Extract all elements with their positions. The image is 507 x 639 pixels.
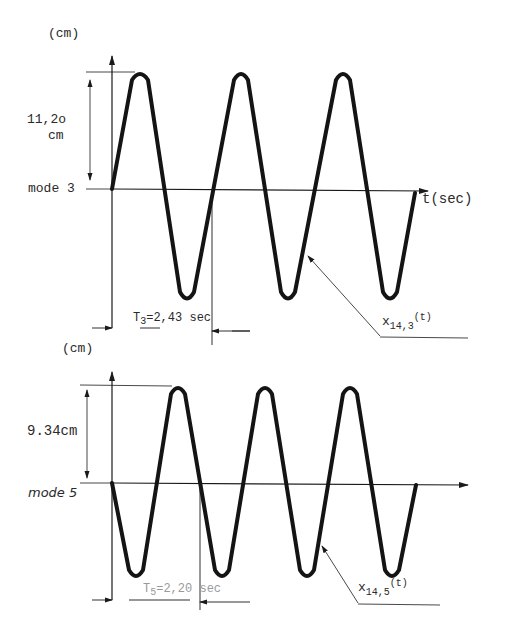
top-x-axis xyxy=(112,189,428,191)
bottom-curve-leader-underline xyxy=(358,604,440,605)
bottom-mode-label: mode 5 xyxy=(28,485,77,500)
top-y-unit-label: (cm) xyxy=(48,26,79,41)
bottom-curve-symbol: x xyxy=(358,580,366,595)
top-amplitude-value: 11,2o xyxy=(27,112,66,127)
top-amplitude-unit: cm xyxy=(48,128,64,143)
top-curve-symbol: x xyxy=(382,314,390,329)
top-curve-superscript: (t) xyxy=(414,312,432,323)
top-curve-subscript: 14,3 xyxy=(390,321,414,332)
top-period-value: =2,43 sec xyxy=(146,311,211,325)
bottom-chart xyxy=(80,372,468,610)
bottom-wave-curve xyxy=(112,388,416,576)
bottom-curve-superscript: (t) xyxy=(390,578,408,589)
bottom-curve-label: x14,5(t) xyxy=(358,578,408,598)
top-curve-leader xyxy=(308,256,380,336)
bottom-y-unit-label: (cm) xyxy=(62,341,93,356)
top-chart xyxy=(86,56,468,345)
bottom-period-value: =2,20 sec xyxy=(156,582,221,596)
top-curve-leader-underline xyxy=(380,337,468,338)
bottom-curve-leader xyxy=(322,546,358,603)
bottom-curve-subscript: 14,5 xyxy=(366,587,390,598)
top-period-label: T3=2,43 sec xyxy=(133,311,211,327)
top-curve-label: x14,3(t) xyxy=(382,312,432,332)
top-wave-curve xyxy=(112,74,415,299)
bottom-period-label: T5=2,20 sec xyxy=(143,582,221,598)
bottom-amplitude-ref-line xyxy=(80,385,172,386)
top-x-axis-label: t(sec) xyxy=(422,191,472,207)
top-mode-label: mode 3 xyxy=(28,181,75,196)
bottom-amplitude-value: 9.34cm xyxy=(27,423,77,439)
